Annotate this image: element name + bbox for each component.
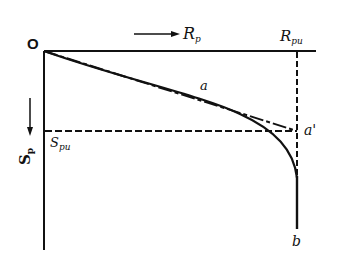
origin-label: O xyxy=(27,36,39,51)
y-direction-arrow-icon xyxy=(27,127,33,136)
point-a-prime-label: a' xyxy=(304,123,316,137)
point-b-label: b xyxy=(292,234,301,248)
y-axis-label: Sp xyxy=(18,148,35,165)
x-direction-arrow-icon xyxy=(171,31,180,37)
curve-point-a-label: a xyxy=(200,79,208,92)
load-settlement-curve xyxy=(44,51,297,178)
x-axis-label: Rp xyxy=(183,26,201,44)
x-ultimate-label: Rpu xyxy=(280,29,303,46)
y-ultimate-label: Spu xyxy=(50,136,70,152)
